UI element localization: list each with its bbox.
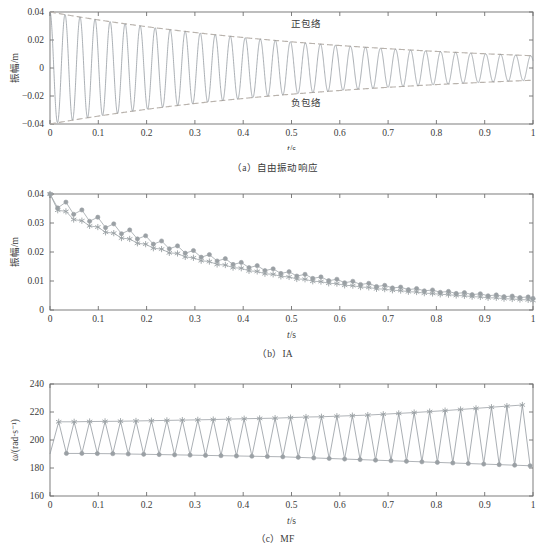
mf-trough-marker (327, 456, 331, 460)
mf-trough-marker (64, 451, 68, 455)
x-tick-label: 0.2 (141, 128, 153, 138)
plot-b-canvas: 00.10.20.30.40.50.60.70.80.9100.010.020.… (0, 180, 550, 340)
mf-trough-marker (173, 453, 177, 457)
ia-series-1-marker (287, 270, 291, 274)
x-tick-label: 0.9 (479, 128, 491, 138)
mf-trough-marker (435, 460, 439, 464)
plot-c-canvas: 00.10.20.30.40.50.60.70.80.9116018020022… (0, 370, 550, 525)
caption-c: （c）MF (0, 531, 550, 545)
ia-series-1-marker (80, 208, 84, 212)
mf-trough-marker (420, 460, 424, 464)
y-tick-label: 0.01 (27, 276, 44, 286)
mf-trough-marker (482, 462, 486, 466)
x-tick-label: 0 (48, 500, 53, 510)
mf-trough-marker (312, 456, 316, 460)
mf-signal-line (50, 405, 530, 466)
x-axis-title: t/s (287, 516, 296, 525)
y-tick-label: 0.02 (27, 247, 44, 257)
x-tick-label: 0.4 (237, 500, 249, 510)
y-tick-label: 0.03 (27, 218, 44, 228)
mf-trough-marker (188, 453, 192, 457)
x-tick-label: 0.1 (92, 500, 104, 510)
ia-series-1-marker (72, 212, 76, 216)
mf-trough-marker (111, 452, 115, 456)
x-tick-label: 0.2 (141, 500, 153, 510)
y-tick-label: 0 (39, 63, 44, 73)
ia-series-line-1 (50, 194, 533, 298)
y-tick-label: 0.02 (27, 35, 44, 45)
x-tick-label: 0.5 (286, 128, 298, 138)
ia-series-1-marker (64, 200, 68, 204)
y-tick-label: 0.04 (27, 7, 44, 17)
mf-trough-marker (404, 459, 408, 463)
mf-trough-marker (451, 461, 455, 465)
x-tick-label: 0.8 (430, 500, 442, 510)
x-tick-label: 0.3 (189, 500, 201, 510)
ia-series-1-marker (159, 239, 163, 243)
y-tick-label: 180 (30, 463, 45, 473)
x-tick-label: 0.4 (237, 314, 249, 324)
plot-frame (50, 194, 533, 310)
x-tick-label: 0.6 (334, 314, 346, 324)
mf-trough-marker (250, 454, 254, 458)
mf-trough-marker (528, 464, 532, 468)
mf-trough-marker (281, 455, 285, 459)
ia-series-1-marker (88, 219, 92, 223)
mf-trough-marker (157, 452, 161, 456)
mf-trough-marker (142, 452, 146, 456)
ia-series-1-marker (223, 257, 227, 261)
x-tick-label: 0.5 (286, 500, 298, 510)
ia-series-1-marker (239, 260, 243, 264)
mf-trough-marker (343, 457, 347, 461)
y-axis-title: ω/(rad·s⁻¹) (10, 419, 21, 461)
mf-trough-marker (80, 451, 84, 455)
y-axis-title: 振幅/m (9, 52, 20, 83)
mf-trough-marker (513, 463, 517, 467)
x-tick-label: 1 (531, 314, 536, 324)
y-tick-label: −0.02 (22, 91, 44, 101)
x-tick-label: 0 (48, 128, 53, 138)
y-tick-label: 0.04 (27, 189, 44, 199)
y-tick-label: 200 (30, 435, 45, 445)
x-tick-label: 0.9 (479, 500, 491, 510)
x-tick-label: 0.9 (479, 314, 491, 324)
y-axis-title: 振幅/m (9, 236, 20, 267)
y-tick-label: 240 (30, 379, 45, 389)
mf-trough-marker (265, 454, 269, 458)
subplot-a-free-vibration: 00.10.20.30.40.50.60.70.80.91−0.04−0.020… (0, 0, 550, 180)
mf-trough-marker (203, 453, 207, 457)
y-tick-label: 220 (30, 407, 45, 417)
x-tick-label: 0.8 (430, 128, 442, 138)
mf-trough-marker (296, 455, 300, 459)
x-tick-label: 1 (531, 128, 536, 138)
x-tick-label: 0.6 (334, 500, 346, 510)
mf-trough-marker (358, 458, 362, 462)
ia-series-1-marker (112, 222, 116, 226)
negative-envelope-label: 负包络 (291, 97, 321, 108)
ia-series-1-marker (207, 253, 211, 257)
ia-series-1-marker (319, 275, 323, 279)
x-tick-label: 0 (48, 314, 53, 324)
x-tick-label: 0.7 (382, 500, 394, 510)
ia-series-1-marker (303, 272, 307, 276)
x-tick-label: 1 (531, 500, 536, 510)
ia-series-1-marker (255, 264, 259, 268)
mf-trough-marker (373, 458, 377, 462)
caption-b: （b）IA (0, 346, 550, 360)
mf-trough-marker (234, 454, 238, 458)
ia-series-1-marker (128, 228, 132, 232)
x-tick-label: 0.7 (382, 314, 394, 324)
ia-series-line-2 (50, 194, 533, 300)
x-tick-label: 0.8 (430, 314, 442, 324)
figure-root: 00.10.20.30.40.50.60.70.80.91−0.04−0.020… (0, 0, 550, 557)
ia-series-1-marker (191, 248, 195, 252)
subplot-c-mf: 00.10.20.30.40.50.60.70.80.9116018020022… (0, 370, 550, 557)
ia-series-1-marker (271, 267, 275, 271)
ia-series-1-marker (144, 234, 148, 238)
x-tick-label: 0.5 (286, 314, 298, 324)
subplot-b-ia: 00.10.20.30.40.50.60.70.80.9100.010.020.… (0, 180, 550, 370)
x-axis-title: t/s (287, 144, 296, 150)
mf-trough-marker (497, 463, 501, 467)
x-axis-title: t/s (287, 330, 296, 340)
x-tick-label: 0.3 (189, 314, 201, 324)
